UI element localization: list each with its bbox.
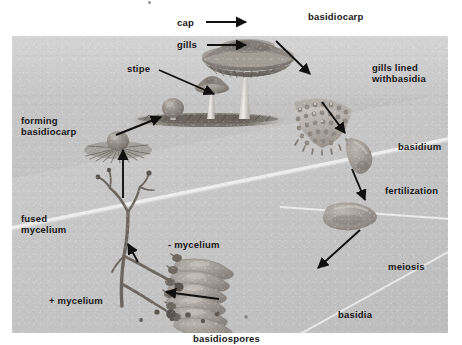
label-basidiocarp: basidiocarp [308,11,364,22]
label-gills-lined-line2: withbasidia [372,73,426,84]
basidium-cell [346,138,372,174]
label-basidium: basidium [398,141,441,152]
label-fertilization: fertilization [385,185,438,196]
label-meiosis: meiosis [388,261,425,272]
label-minus-mycelium: - mycelium [168,239,220,250]
label-forming-basidiocarp: forming basidiocarp [21,115,77,137]
label-fused-mycelium: fused mycelium [21,213,66,235]
label-cap: cap [177,17,194,28]
label-fused-mycelium-line1: fused [21,213,66,224]
label-basidia: basidia [338,309,372,320]
label-gills-lined-with-basidia: gills lined withbasidia [372,62,426,84]
label-gills: gills [177,39,197,50]
label-fused-mycelium-line2: mycelium [21,224,66,235]
scan-speck [148,1,151,4]
label-stipe: stipe [127,63,150,74]
label-gills-lined-line1: gills lined [372,62,426,73]
basidia-cluster [163,254,234,333]
zygote-cell [323,202,377,230]
forming-basidiocarp-tuft [84,131,152,163]
gill-section [294,98,352,155]
label-basidiospores: basidiospores [193,333,260,344]
small-mushroom [195,76,230,119]
label-plus-mycelium: + mycelium [49,295,103,306]
life-cycle-figure: cap gills stipe basidiocarp gills lined … [0,0,462,345]
label-forming-basidiocarp-line2: basidiocarp [21,126,77,137]
label-forming-basidiocarp-line1: forming [21,115,77,126]
